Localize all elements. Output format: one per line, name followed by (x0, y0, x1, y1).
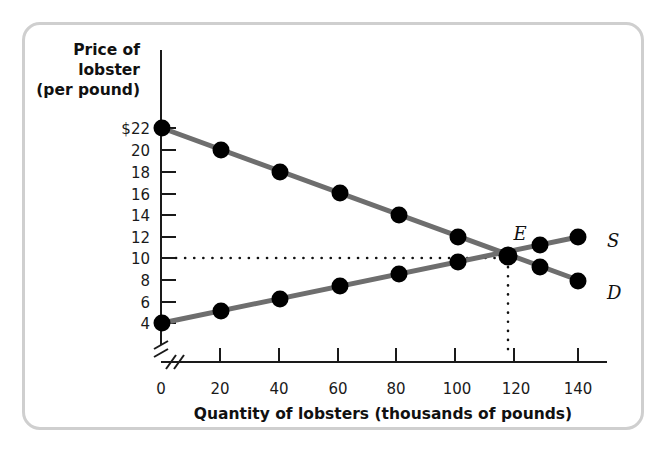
x-axis-ticks (220, 348, 578, 362)
y-tick-label-22: $22 (121, 120, 150, 138)
y-axis-title-line-3: (per pound) (36, 81, 140, 99)
x-axis-title: Quantity of lobsters (thousands of pound… (194, 405, 572, 423)
demand-curve-label: D (606, 282, 622, 303)
y-tick-label-10: 10 (131, 250, 150, 268)
demand-point-0-22 (154, 120, 171, 137)
y-tick-label-16: 16 (131, 186, 150, 204)
demand-point-20-20 (213, 142, 230, 159)
supply-point-140-11 (532, 237, 549, 254)
figure-root: Price of lobster (per pound) (0, 0, 667, 457)
y-tick-label-6: 6 (140, 294, 150, 312)
y-tick-label-4: 4 (140, 315, 150, 333)
demand-point-end (570, 273, 587, 290)
demand-point-140-8 (532, 259, 549, 276)
supply-point-80-8 (391, 266, 408, 283)
supply-point-20-5 (213, 303, 230, 320)
supply-point-60-7 (332, 278, 349, 295)
supply-demand-chart: Price of lobster (per pound) (0, 0, 667, 457)
y-tick-label-20: 20 (131, 142, 150, 160)
y-tick-label-14: 14 (131, 207, 150, 225)
x-tick-label-0: 0 (156, 380, 166, 398)
supply-point-end (570, 229, 587, 246)
supply-point-100-9 (450, 254, 467, 271)
supply-point-40-6 (272, 291, 289, 308)
equilibrium-point (499, 247, 518, 266)
demand-point-100-12 (450, 229, 467, 246)
x-tick-label-40: 40 (269, 380, 288, 398)
x-tick-label-120: 120 (502, 380, 531, 398)
demand-point-40-18 (272, 164, 289, 181)
x-tick-label-100: 100 (443, 380, 472, 398)
x-tick-label-20: 20 (210, 380, 229, 398)
supply-point-0-4 (154, 315, 171, 332)
y-tick-label-8: 8 (140, 272, 150, 290)
demand-point-60-16 (332, 185, 349, 202)
equilibrium-label: E (512, 223, 526, 244)
supply-curve-label: S (607, 230, 619, 251)
y-axis-title-line-1: Price of (73, 41, 140, 59)
y-tick-label-18: 18 (131, 164, 150, 182)
demand-point-80-14 (391, 207, 408, 224)
x-tick-label-60: 60 (328, 380, 347, 398)
y-tick-label-12: 12 (131, 229, 150, 247)
y-axis-ticks (161, 128, 176, 323)
y-axis-title-line-2: lobster (78, 61, 140, 79)
x-tick-label-140: 140 (564, 380, 593, 398)
x-tick-label-80: 80 (386, 380, 405, 398)
